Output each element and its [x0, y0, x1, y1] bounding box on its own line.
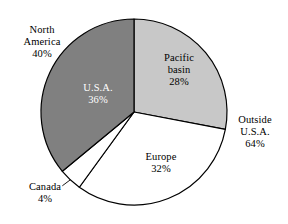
label-canada-name: Canada [14, 181, 76, 193]
label-usa-name: U.S.A. [66, 82, 130, 94]
label-outside-usa: Outside U.S.A. 64% [224, 114, 286, 149]
label-outside-usa-line2: U.S.A. [224, 126, 286, 138]
label-europe-name: Europe [130, 151, 192, 163]
label-europe-value: 32% [130, 163, 192, 175]
label-europe: Europe 32% [130, 151, 192, 175]
label-pacific-basin: Pacific basin 28% [148, 52, 210, 87]
label-outside-usa-value: 64% [224, 138, 286, 150]
pie-chart-figure: North America 40% Outside U.S.A. 64% Can… [0, 0, 288, 224]
label-north-america-value: 40% [6, 48, 78, 60]
label-north-america-line2: America [6, 36, 78, 48]
label-canada-value: 4% [14, 193, 76, 205]
label-usa: U.S.A. 36% [66, 82, 130, 106]
label-canada: Canada 4% [14, 181, 76, 205]
label-north-america-line1: North [6, 24, 78, 36]
label-pacific-basin-value: 28% [148, 76, 210, 88]
label-outside-usa-line1: Outside [224, 114, 286, 126]
label-usa-value: 36% [66, 94, 130, 106]
label-north-america: North America 40% [6, 24, 78, 59]
label-pacific-basin-line1: Pacific [148, 52, 210, 64]
label-pacific-basin-line2: basin [148, 64, 210, 76]
